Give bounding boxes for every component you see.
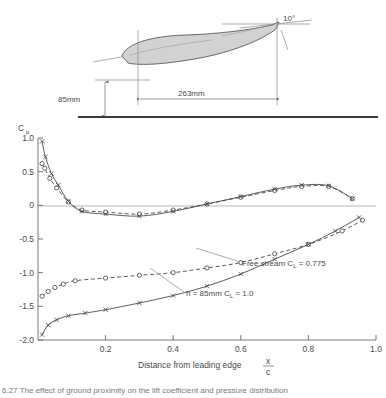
data-point-marker-circle [360,218,364,222]
angle-label: 10° [283,14,295,23]
x-tick-label: 0.2 [100,344,112,354]
y-tick-label: 1.0 [22,133,34,143]
y-tick-label: 0 [29,200,34,210]
x-tick-label: 0.8 [302,344,314,354]
data-point-marker-cross [54,318,58,322]
data-point-marker-cross [357,215,361,219]
data-point-marker-circle [273,252,277,256]
annotation-ground-effect: h = 85mm CL = 1.0 [186,289,254,299]
chord-label: 263mm [178,89,205,98]
data-point-marker-circle [340,229,344,233]
height-label: 85mm [58,95,81,104]
leader-line-free-stream [196,248,240,262]
y-tick-label: -1.0 [19,268,34,278]
x-tick-label: 0.6 [235,344,247,354]
series-line-3 [42,217,359,334]
data-point-marker-cross [49,172,53,176]
data-point-marker-circle [73,279,77,283]
data-point-marker-cross [239,272,243,276]
data-point-marker-circle [48,176,52,180]
x-axis-fraction-numerator: x [266,356,271,366]
data-point-marker-circle [205,266,209,270]
trailing-edge-tick [281,30,288,50]
series-line-1 [42,141,352,216]
data-point-marker-circle [61,282,65,286]
y-tick-label: 0.5 [22,167,34,177]
data-point-marker-circle [137,273,141,277]
y-axis-ticks: 1.00.50-0.5-1.0-1.5-2.0 [19,133,43,345]
x-axis-label: Distance from leading edge [138,360,242,370]
figure-caption-text: The effect of ground proximity on the li… [20,386,288,395]
data-point-marker-circle [104,276,108,280]
figure-container: 10° 85mm 263mm C p [0,0,386,398]
x-axis-fraction-denominator: c [266,367,271,377]
data-point-marker-cross [46,323,50,327]
data-point-marker-circle [46,289,50,293]
airfoil-diagram: 10° 85mm 263mm [58,14,378,117]
figure-caption-number: 6.27 [2,386,18,395]
data-point-marker-circle [53,285,57,289]
data-point-marker-circle [171,271,175,275]
x-tick-label: 0.4 [167,344,179,354]
data-point-marker-circle [40,294,44,298]
x-axis-ticks: 0.20.40.60.81.0 [100,335,382,354]
x-tick-label: 1.0 [370,344,382,354]
figure-caption: 6.27 The effect of ground proximity on t… [2,386,386,395]
data-point-marker-cross [40,333,44,337]
data-point-marker-cross [333,229,337,233]
pressure-distribution-chart: C p 1.00.50-0.5-1.0-1.5-2.0 0.20.40.60.8… [18,123,382,377]
y-tick-label: -1.5 [19,301,34,311]
y-tick-label: -0.5 [19,234,34,244]
data-curves [40,139,365,336]
figure-svg: 10° 85mm 263mm C p [0,0,386,398]
annotation-free-stream: Free stream CL = 0.775 [242,259,326,269]
data-point-marker-circle [40,161,44,165]
y-axis-label: C [18,123,24,133]
y-tick-label: -2.0 [19,335,34,345]
data-point-marker-circle [43,166,47,170]
